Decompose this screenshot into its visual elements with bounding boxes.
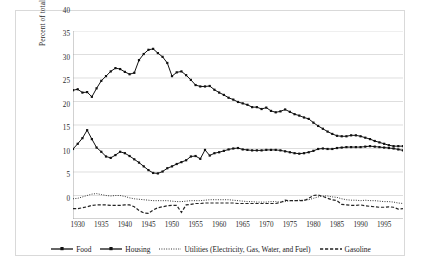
series-line-utilities [73, 194, 403, 204]
data-point-marker [110, 70, 112, 72]
data-point-marker [204, 149, 206, 151]
data-point-marker [388, 144, 390, 146]
data-point-marker [242, 148, 244, 150]
data-point-marker [242, 102, 244, 104]
data-point-marker [308, 118, 310, 120]
legend-key-icon [51, 245, 73, 253]
legend-label: Housing [125, 245, 150, 254]
data-point-marker [152, 172, 154, 174]
data-point-marker [260, 149, 262, 151]
data-point-marker [326, 148, 328, 150]
legend-item[interactable]: Utilities (Electricity, Gas, Water, and … [159, 245, 310, 254]
data-point-marker [194, 84, 196, 86]
data-point-marker [251, 106, 253, 108]
data-point-marker [284, 108, 286, 110]
data-point-marker [138, 162, 140, 164]
data-point-marker [237, 147, 239, 149]
data-point-marker [100, 151, 102, 153]
data-point-marker [124, 152, 126, 154]
data-point-marker [270, 149, 272, 151]
data-point-marker [147, 49, 149, 51]
data-point-marker [223, 94, 225, 96]
x-axis-tick-labels: 1930193519401945195019551960196519701975… [73, 221, 403, 235]
data-point-marker [256, 106, 258, 108]
data-point-marker [227, 148, 229, 150]
y-tick-label: 35 [44, 31, 70, 38]
data-point-marker [378, 146, 380, 148]
data-point-marker [161, 56, 163, 58]
data-point-marker [95, 87, 97, 89]
data-point-marker [171, 75, 173, 77]
data-point-marker [73, 148, 74, 150]
data-point-marker [227, 97, 229, 99]
data-point-marker [298, 153, 300, 155]
legend-label: Gasoline [345, 245, 371, 254]
data-point-marker [341, 135, 343, 137]
data-point-marker [161, 170, 163, 172]
data-point-marker [133, 72, 135, 74]
chart-canvas [73, 31, 403, 219]
data-point-marker [81, 137, 83, 139]
data-point-marker [114, 154, 116, 156]
data-point-marker [119, 151, 121, 153]
data-point-marker [237, 101, 239, 103]
data-point-marker [166, 167, 168, 169]
data-point-marker [185, 159, 187, 161]
data-point-marker [251, 149, 253, 151]
data-point-marker [345, 135, 347, 137]
data-point-marker [298, 115, 300, 117]
data-point-marker [326, 130, 328, 132]
data-point-marker [374, 146, 376, 148]
data-point-marker [303, 116, 305, 118]
data-point-marker [275, 149, 277, 151]
data-point-marker [133, 158, 135, 160]
legend-item[interactable]: Food [51, 245, 91, 254]
data-point-marker [392, 147, 394, 149]
data-point-marker [95, 146, 97, 148]
data-point-marker [147, 169, 149, 171]
data-point-marker [355, 146, 357, 148]
data-point-marker [199, 158, 201, 160]
data-point-marker [194, 155, 196, 157]
data-point-marker [213, 89, 215, 91]
data-point-marker [388, 147, 390, 149]
data-point-marker [260, 108, 262, 110]
data-point-marker [336, 135, 338, 137]
data-point-marker [209, 85, 211, 87]
plot-area [73, 31, 403, 219]
chart-figure: Percent of total consumer expenditures 0… [15, 10, 405, 256]
data-point-marker [312, 150, 314, 152]
data-point-marker [392, 145, 394, 147]
y-tick-label: 40 [44, 8, 70, 15]
data-point-marker [397, 145, 399, 147]
data-point-marker [383, 143, 385, 145]
data-point-marker [143, 165, 145, 167]
data-point-marker [279, 149, 281, 151]
legend-item[interactable]: Housing [100, 245, 150, 254]
data-point-marker [312, 122, 314, 124]
data-point-marker [378, 141, 380, 143]
series-line-gasoline [73, 195, 403, 213]
data-point-marker [100, 80, 102, 82]
data-point-marker [223, 150, 225, 152]
data-point-marker [77, 88, 79, 90]
data-point-marker [91, 138, 93, 140]
x-tick-label: 1995 [369, 221, 399, 230]
data-point-marker [232, 99, 234, 101]
legend-label: Utilities (Electricity, Gas, Water, and … [184, 245, 310, 254]
data-point-marker [124, 71, 126, 73]
data-point-marker [293, 113, 295, 115]
data-point-marker [105, 155, 107, 157]
data-point-marker [293, 152, 295, 154]
y-tick-label: 10 [44, 149, 70, 156]
legend-item[interactable]: Gasoline [320, 245, 371, 254]
data-point-marker [110, 157, 112, 159]
data-point-marker [345, 146, 347, 148]
data-point-marker [317, 125, 319, 127]
data-point-marker [128, 155, 130, 157]
data-point-marker [355, 134, 357, 136]
y-tick-label: 15 [44, 125, 70, 132]
data-point-marker [350, 134, 352, 136]
data-point-marker [86, 91, 88, 93]
chart-legend: FoodHousingUtilities (Electricity, Gas, … [16, 239, 406, 259]
